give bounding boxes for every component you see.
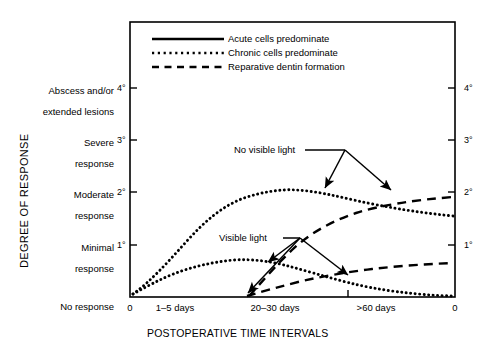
- plot-frame: [130, 22, 455, 297]
- annotation-visible-light-arrow-3: [300, 238, 348, 275]
- plot-graphics: [0, 0, 485, 348]
- annotation-no-visible-light-arrow-1: [325, 150, 345, 188]
- figure-root: DEGREE OF RESPONSE Abscess and/or extend…: [0, 0, 485, 348]
- y-axis-ticks-left: [130, 88, 137, 245]
- annotation-no-visible-light-arrow-2: [345, 150, 391, 190]
- curve-reparative-visible-light: [247, 263, 453, 296]
- annotation-visible-light-arrow-2: [248, 238, 300, 293]
- curve-chronic-visible-light: [133, 260, 453, 296]
- y-axis-ticks-right: [448, 88, 455, 245]
- curve-chronic-no-visible-light: [133, 190, 453, 294]
